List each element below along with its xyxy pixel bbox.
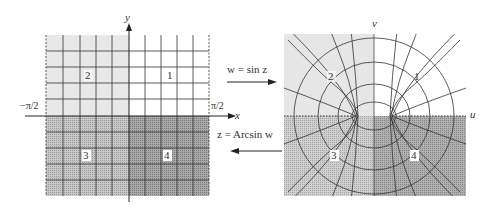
mapping-arrows: w = sin z z = Arcsin w <box>215 60 290 150</box>
w-quadrant-1-region <box>374 34 466 116</box>
z-quadrant-1-label: 1 <box>167 69 173 81</box>
w-quadrant-2-label: 2 <box>328 70 334 82</box>
left-bound-label: −π/2 <box>20 100 38 111</box>
z-plane-panel: y x −π/2 π/2 2 1 3 4 <box>0 0 240 209</box>
u-axis-label: u <box>470 108 476 120</box>
inverse-map-label: z = Arcsin w <box>217 128 273 140</box>
w-quadrant-3-region <box>284 116 374 196</box>
inverse-arrow-icon <box>230 148 239 154</box>
w-quadrant-1-label: 1 <box>414 70 420 82</box>
forward-arrow-icon <box>268 79 277 85</box>
v-axis-label: v <box>372 17 377 29</box>
w-quadrant-4-label: 4 <box>411 149 417 161</box>
z-quadrant-2-label: 2 <box>85 69 91 81</box>
y-axis-label: y <box>125 11 130 23</box>
y-axis-arrow-icon <box>126 23 132 31</box>
z-quadrant-4-label: 4 <box>164 149 170 161</box>
w-plane-panel: v u 2 1 3 4 <box>280 0 492 209</box>
z-quadrant-3-label: 3 <box>83 149 89 161</box>
w-plane-map <box>280 0 492 209</box>
w-quadrant-3-label: 3 <box>331 149 337 161</box>
